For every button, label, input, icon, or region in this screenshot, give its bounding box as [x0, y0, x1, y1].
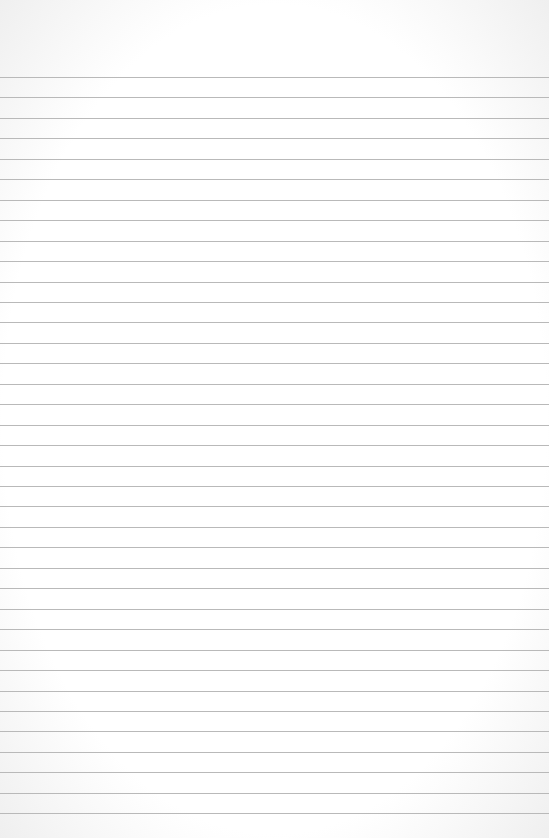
ruled-line	[0, 711, 549, 712]
ruled-line	[0, 384, 549, 385]
ruled-line	[0, 77, 549, 78]
ruled-line	[0, 609, 549, 610]
ruled-line	[0, 261, 549, 262]
ruled-line	[0, 486, 549, 487]
ruled-line	[0, 159, 549, 160]
ruled-line	[0, 241, 549, 242]
ruled-line	[0, 282, 549, 283]
ruled-line	[0, 772, 549, 773]
ruled-line	[0, 138, 549, 139]
ruled-line	[0, 752, 549, 753]
ruled-line	[0, 731, 549, 732]
ruled-line	[0, 200, 549, 201]
ruled-line	[0, 793, 549, 794]
ruled-line	[0, 466, 549, 467]
ruled-line	[0, 363, 549, 364]
ruled-line	[0, 527, 549, 528]
ruled-line	[0, 404, 549, 405]
ruled-line	[0, 650, 549, 651]
ruled-line	[0, 220, 549, 221]
ruled-line	[0, 691, 549, 692]
ruled-line	[0, 118, 549, 119]
ruled-line	[0, 568, 549, 569]
ruled-line	[0, 302, 549, 303]
ruled-line	[0, 343, 549, 344]
ruled-line	[0, 670, 549, 671]
ruled-line	[0, 506, 549, 507]
ruled-line	[0, 179, 549, 180]
lined-paper-sheet	[0, 0, 549, 838]
ruled-line	[0, 588, 549, 589]
ruled-line	[0, 322, 549, 323]
ruled-line	[0, 813, 549, 814]
ruled-line	[0, 629, 549, 630]
ruled-line	[0, 97, 549, 98]
ruled-line	[0, 547, 549, 548]
ruled-line	[0, 425, 549, 426]
ruled-line	[0, 445, 549, 446]
